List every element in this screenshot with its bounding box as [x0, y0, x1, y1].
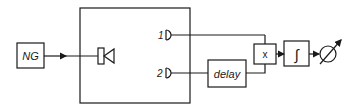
meter-icon: [320, 40, 341, 64]
integrator-label: ∫: [293, 46, 300, 64]
loudspeaker-icon: [98, 48, 114, 64]
microphone-2: 2: [156, 68, 171, 79]
delay-block: delay: [208, 60, 246, 87]
diagram-canvas: NG 1 2 delay: [0, 0, 362, 107]
delay-to-multiplier-line: [246, 64, 265, 73]
microphone-1: 1: [158, 30, 171, 41]
noise-generator-block: NG: [17, 43, 44, 68]
noise-generator-label: NG: [22, 50, 39, 62]
multiplier-label: x: [263, 49, 268, 60]
delay-label: delay: [214, 68, 242, 80]
integrator-block: ∫: [284, 41, 309, 66]
mic-1-label: 1: [158, 30, 164, 41]
multiplier-block: x: [254, 44, 276, 64]
mic-2-label: 2: [156, 68, 163, 79]
